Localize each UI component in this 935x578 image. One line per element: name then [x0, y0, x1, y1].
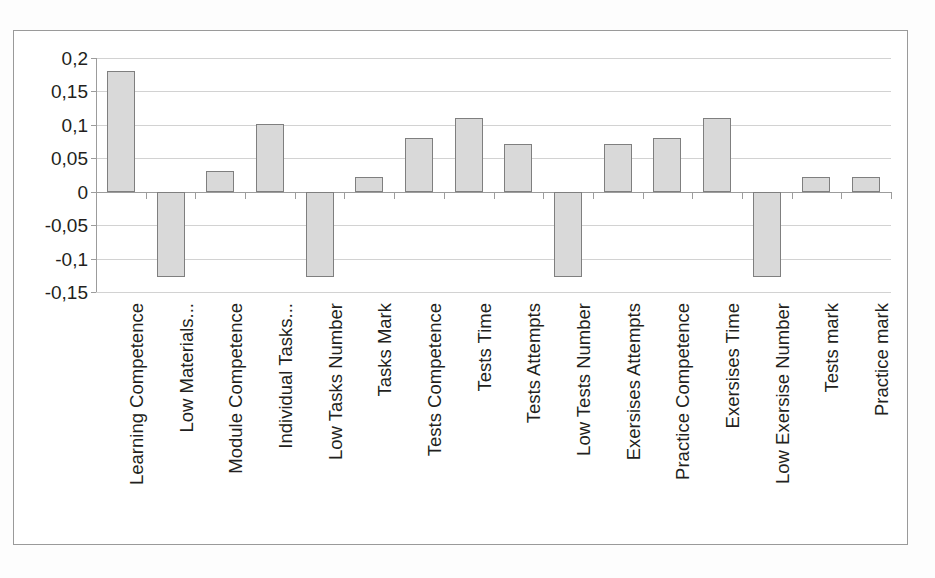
plot-area	[96, 58, 891, 292]
y-axis-tick-label: -0,15	[45, 283, 88, 302]
category-label-slot: Practice mark	[841, 299, 891, 569]
category-label-slot: Tasks Mark	[344, 299, 394, 569]
category-label: Tests mark	[823, 303, 842, 392]
category-label: Low Tasks Number	[327, 303, 346, 460]
category-label: Learning Competence	[128, 303, 147, 485]
bar-slot	[792, 58, 842, 292]
bar-slot	[593, 58, 643, 292]
category-label-slot: Exersises Time	[692, 299, 742, 569]
bar-slot	[742, 58, 792, 292]
gridline	[96, 292, 891, 293]
bar[interactable]	[802, 177, 830, 192]
bar[interactable]	[703, 118, 731, 192]
category-label-slot: Low Exersise Number	[742, 299, 792, 569]
bar-slot	[195, 58, 245, 292]
bar[interactable]	[504, 144, 532, 192]
bar[interactable]	[604, 144, 632, 192]
category-label: Practice mark	[873, 303, 892, 416]
category-label-slot: Learning Competence	[96, 299, 146, 569]
category-label-slot: Individual Tasks...	[245, 299, 295, 569]
category-label-slot: Low Tasks Number	[295, 299, 345, 569]
bar-slot	[643, 58, 693, 292]
category-label-slot: Low Tests Number	[543, 299, 593, 569]
bar[interactable]	[455, 118, 483, 192]
bar-slot	[841, 58, 891, 292]
x-axis-category-labels: Learning CompetenceLow Materials...Modul…	[96, 299, 891, 569]
bar[interactable]	[107, 71, 135, 191]
bar-slot	[494, 58, 544, 292]
category-label-slot: Module Competence	[195, 299, 245, 569]
bar-slot	[344, 58, 394, 292]
y-axis-tick	[91, 292, 96, 293]
category-label-slot: Tests mark	[792, 299, 842, 569]
bar[interactable]	[256, 124, 284, 192]
y-axis-tick-label: 0,15	[51, 82, 88, 101]
bar-slot	[96, 58, 146, 292]
category-label: Tests Attempts	[525, 303, 544, 423]
bar-slot	[245, 58, 295, 292]
bar-series	[96, 58, 891, 292]
category-label: Individual Tasks...	[277, 303, 296, 449]
category-label: Low Tests Number	[575, 303, 594, 456]
category-label-slot: Tests Attempts	[494, 299, 544, 569]
bar-slot	[543, 58, 593, 292]
bar-slot	[295, 58, 345, 292]
y-axis-tick-labels: 0,20,150,10,050-0,05-0,1-0,15	[14, 58, 88, 292]
category-label: Practice Competence	[674, 303, 693, 480]
bar-slot	[394, 58, 444, 292]
category-label-slot: Exersises Attempts	[593, 299, 643, 569]
bar[interactable]	[206, 171, 234, 192]
category-label: Module Competence	[227, 303, 246, 474]
y-axis-tick-label: 0	[77, 183, 88, 202]
y-axis-tick-label: -0,1	[55, 250, 88, 269]
bar[interactable]	[653, 138, 681, 192]
category-label: Tests Time	[476, 303, 495, 391]
x-axis-tick	[891, 192, 892, 199]
bar-slot	[692, 58, 742, 292]
category-label: Exersises Attempts	[625, 303, 644, 460]
category-label: Low Materials...	[178, 303, 197, 433]
bar[interactable]	[852, 177, 880, 192]
category-label-slot: Tests Competence	[394, 299, 444, 569]
y-axis-tick-label: 0,2	[62, 49, 88, 68]
scanned-page-background: 0,20,150,10,050-0,05-0,1-0,15 Learning C…	[0, 0, 935, 578]
bar[interactable]	[405, 138, 433, 192]
bar[interactable]	[753, 192, 781, 278]
bar[interactable]	[554, 192, 582, 278]
bar-slot	[444, 58, 494, 292]
bar[interactable]	[157, 192, 185, 278]
category-label: Tasks Mark	[376, 303, 395, 397]
category-label: Low Exersise Number	[774, 303, 793, 484]
y-axis-tick-label: -0,05	[45, 216, 88, 235]
y-axis-tick-label: 0,05	[51, 149, 88, 168]
bar-slot	[146, 58, 196, 292]
category-label: Tests Competence	[426, 303, 445, 456]
chart-frame: 0,20,150,10,050-0,05-0,1-0,15 Learning C…	[13, 30, 908, 545]
category-label-slot: Practice Competence	[643, 299, 693, 569]
bar[interactable]	[355, 177, 383, 192]
category-label-slot: Tests Time	[444, 299, 494, 569]
category-label-slot: Low Materials...	[146, 299, 196, 569]
category-label: Exersises Time	[724, 303, 743, 428]
bar[interactable]	[306, 192, 334, 278]
y-axis-tick-label: 0,1	[62, 116, 88, 135]
